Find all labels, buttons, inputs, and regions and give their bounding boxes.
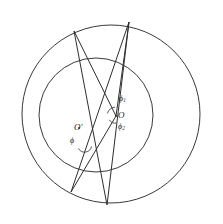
angle-phi-1-subscript: 1 — [123, 97, 126, 103]
label-angle-phi-2: ϕ2 — [118, 123, 125, 131]
label-angle-phi: ϕ — [70, 137, 74, 145]
geometry-figure: O O′ ϕ ϕ1 ϕ2 — [0, 0, 223, 224]
label-angle-phi-1: ϕ1 — [119, 95, 126, 103]
chord-c — [74, 31, 116, 116]
label-center-o: O — [118, 111, 125, 120]
center-o-dot — [115, 115, 117, 117]
figure-canvas — [0, 0, 223, 224]
label-center-o-prime: O′ — [74, 123, 82, 132]
angle-phi-2-subscript: 2 — [122, 125, 125, 131]
outer-circle — [22, 25, 200, 203]
